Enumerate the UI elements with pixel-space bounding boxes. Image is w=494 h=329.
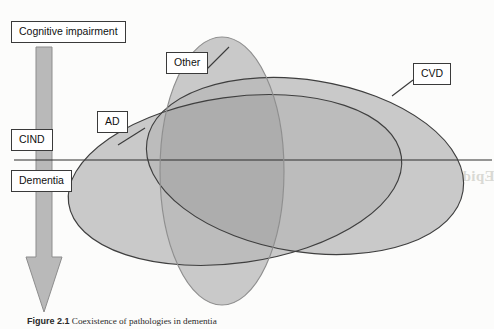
figure-caption: Figure 2.1 Coexistence of pathologies in… <box>27 316 467 326</box>
label-ad[interactable]: AD <box>97 111 128 133</box>
figure-caption-number: Figure 2.1 <box>27 316 70 326</box>
label-cind[interactable]: CIND <box>11 129 53 151</box>
figure-venn-dementia-pathology: Epidemiology and Pathology this more det… <box>0 0 494 329</box>
leader-cvd <box>392 80 413 96</box>
label-cognitive-impairment[interactable]: Cognitive impairment <box>11 21 126 43</box>
label-other[interactable]: Other <box>166 52 208 74</box>
label-cvd[interactable]: CVD <box>413 63 451 85</box>
label-dementia[interactable]: Dementia <box>11 170 72 192</box>
venn-diagram-canvas <box>0 0 494 329</box>
figure-caption-text: Coexistence of pathologies in dementia <box>72 316 217 326</box>
